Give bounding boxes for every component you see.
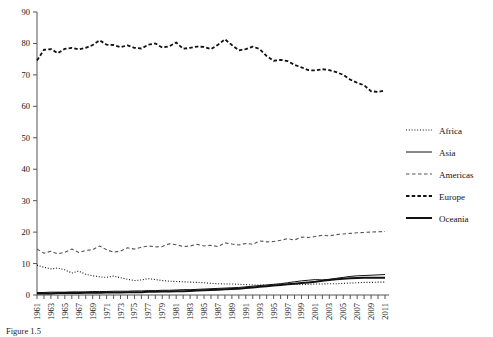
x-axis-tick-label: 2001 [310,303,320,320]
x-axis-tick-label: 1999 [296,303,306,320]
y-axis-tick-label: 50 [22,133,31,143]
series-line-europe [37,39,385,92]
y-axis-tick-label: 90 [22,7,31,17]
legend-label-oceania: Oceania [439,214,468,224]
x-axis-tick-label: 1963 [46,303,56,320]
series-line-africa [37,265,385,285]
chart-figure: 0102030405060708090196119631965196719691… [0,0,493,337]
y-axis-tick-label: 30 [22,196,31,206]
x-axis-tick-label: 1985 [199,303,209,320]
x-axis-tick-label: 2011 [380,303,390,320]
line-chart: 0102030405060708090196119631965196719691… [0,0,493,337]
x-axis-tick-label: 1981 [171,303,181,320]
x-axis-tick-label: 1973 [116,303,126,320]
legend-label-asia: Asia [439,148,456,158]
x-axis-tick-label: 1995 [269,303,279,320]
legend-label-africa: Africa [439,126,462,136]
x-axis-tick-label: 1983 [185,303,195,320]
series-line-oceania [37,278,385,294]
y-axis-tick-label: 40 [22,164,31,174]
y-axis-tick-label: 60 [22,101,31,111]
x-axis-tick-label: 1965 [60,303,70,320]
y-axis-tick-label: 70 [22,70,31,80]
x-axis-tick-label: 1979 [157,303,167,320]
x-axis-tick-label: 1971 [102,303,112,320]
y-axis-tick-label: 80 [22,38,31,48]
x-axis-tick-label: 1991 [241,303,251,320]
y-axis-tick-label: 20 [22,227,31,237]
x-axis-tick-label: 1997 [283,303,293,320]
x-axis-tick-label: 1993 [255,303,265,320]
x-axis-tick-label: 2007 [352,303,362,320]
y-axis-tick-label: 0 [26,290,30,300]
legend-label-europe: Europe [439,192,465,202]
x-axis-tick-label: 1977 [143,303,153,320]
y-axis-tick-label: 10 [22,259,31,269]
series-line-americas [37,231,385,253]
x-axis-tick-label: 1989 [227,303,237,320]
x-axis-tick-label: 1967 [74,303,84,320]
x-axis-tick-label: 1987 [213,303,223,320]
x-axis-tick-label: 1975 [129,303,139,320]
legend-label-americas: Americas [439,170,474,180]
figure-caption: Figure 1.5 [6,326,41,337]
x-axis-tick-label: 2003 [324,303,334,320]
x-axis-tick-label: 1961 [32,303,42,320]
x-axis-tick-label: 1969 [88,303,98,320]
x-axis-tick-label: 2009 [366,303,376,320]
x-axis-tick-label: 2005 [338,303,348,320]
